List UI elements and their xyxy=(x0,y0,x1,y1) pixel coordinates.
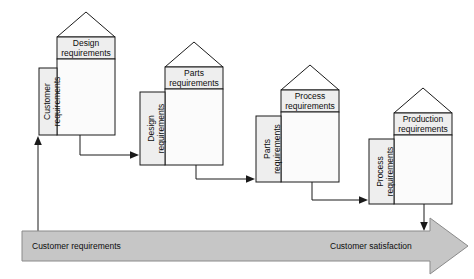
arrowhead-down-icon xyxy=(420,222,428,231)
house-3-header-box xyxy=(281,90,339,112)
house-3-group xyxy=(256,65,339,182)
house-1-header-box xyxy=(57,37,115,59)
house-3-side-box xyxy=(256,116,281,182)
arrowhead-right-icon xyxy=(246,175,255,183)
house-1-group xyxy=(39,12,115,135)
arrowhead-right-icon xyxy=(130,151,139,159)
house-1-roof-icon xyxy=(57,12,115,37)
house-2-side-box xyxy=(140,92,165,165)
house-2-matrix-body xyxy=(165,89,223,165)
connector-banner-to-house-1 xyxy=(34,136,42,236)
diagram-vector-layer xyxy=(0,0,474,279)
house-2-group xyxy=(140,42,223,165)
connector-house-2-to-house-3 xyxy=(196,165,255,183)
house-1-matrix-body xyxy=(57,59,115,135)
connector-house-1-to-house-2 xyxy=(80,135,139,159)
banner-arrow-shape xyxy=(22,218,468,274)
arrowhead-right-icon xyxy=(359,196,368,204)
qfd-cascade-diagram: Design requirements Parts requirements P… xyxy=(0,0,474,279)
connector-house-3-to-house-4 xyxy=(312,182,368,204)
house-4-matrix-body xyxy=(394,135,452,204)
house-4-header-box xyxy=(394,113,452,135)
house-2-header-box xyxy=(165,67,223,89)
house-4-roof-icon xyxy=(394,88,452,113)
house-3-roof-icon xyxy=(281,65,339,90)
house-2-roof-icon xyxy=(165,42,223,67)
house-3-matrix-body xyxy=(281,112,339,182)
house-1-side-box xyxy=(39,68,57,135)
arrowhead-up-icon xyxy=(34,136,42,145)
house-4-side-box xyxy=(369,139,394,204)
connector-house-4-to-banner xyxy=(420,204,428,231)
house-4-group xyxy=(369,88,452,204)
